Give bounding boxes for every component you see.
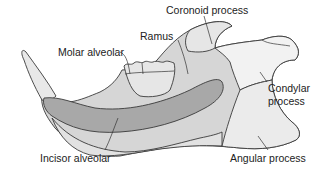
incisor-tip: [22, 50, 56, 100]
mandible-diagram: Coronoid process Ramus Molar alveolar Co…: [0, 0, 326, 172]
label-ramus: Ramus: [140, 30, 173, 42]
label-condylar-process-line1: Condylar: [268, 82, 311, 94]
label-angular-process: Angular process: [230, 152, 306, 164]
label-incisor-alveolar: Incisor alveolar: [40, 152, 111, 164]
label-condylar-process-line2: process: [268, 95, 305, 107]
label-molar-alveolar: Molar alveolar: [58, 46, 124, 58]
label-coronoid-process: Coronoid process: [166, 4, 248, 16]
